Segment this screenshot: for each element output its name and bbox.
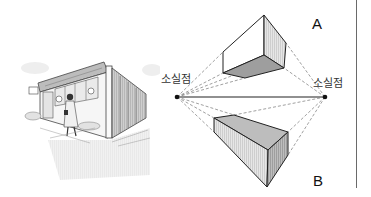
box-a — [223, 15, 286, 78]
building-sketch — [0, 0, 160, 197]
divider-line — [356, 0, 357, 188]
perspective-diagram-svg — [150, 0, 371, 197]
vanishing-point-left-label: 소실점 — [161, 70, 191, 86]
box-a-label: A — [312, 15, 322, 32]
vanishing-point-right — [323, 95, 328, 100]
vanishing-point-left — [175, 95, 180, 100]
box-b-label: B — [313, 172, 323, 189]
box-b — [214, 115, 288, 187]
two-point-perspective-diagram — [150, 0, 371, 197]
vanishing-point-right-label: 소실점 — [313, 74, 343, 90]
building-sketch-illustration — [0, 0, 160, 197]
